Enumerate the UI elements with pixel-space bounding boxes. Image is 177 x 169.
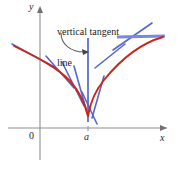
vertical-tangent-annotation: vertical tangent line [57, 6, 119, 88]
annotation-line-1: vertical tangent [57, 26, 119, 37]
x-axis-label: x [160, 133, 164, 143]
right-horizontal-tangent [117, 36, 165, 37]
annotation-line-2: line [57, 57, 119, 68]
y-axis-label: y [29, 2, 33, 12]
vertical-tangent-figure: vertical tangent line y x 0 a [0, 0, 177, 169]
x-axis-arrowhead [160, 125, 167, 131]
origin-label: 0 [29, 131, 34, 141]
point-a-label: a [84, 132, 89, 142]
y-axis-arrowhead [37, 6, 43, 13]
